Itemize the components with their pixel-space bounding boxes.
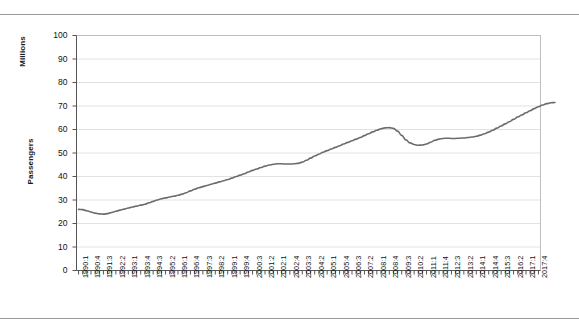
x-axis-tick-label: 2015:3 (504, 255, 511, 277)
x-axis-tick-label: 2011:1 (430, 256, 437, 278)
x-axis-tick-label: 1998:2 (218, 255, 225, 277)
x-axis-tick-label: 2008:1 (380, 255, 387, 277)
x-axis-tick-label: 1990:4 (94, 255, 101, 277)
x-axis-tick-label: 2007:2 (367, 255, 374, 277)
x-axis-tick-label: 2005:1 (330, 255, 337, 277)
x-axis-tick-label: 1993:1 (131, 255, 138, 277)
x-axis-tick-label: 1991:3 (106, 255, 113, 277)
x-axis-tick-label: 2001:2 (268, 255, 275, 277)
x-axis-tick-label: 2014:4 (492, 255, 499, 277)
x-axis-tick-label: 2017:1 (529, 255, 536, 277)
x-axis-tick-label: 2006:3 (355, 255, 362, 277)
x-axis-tick-label: 1993:4 (144, 255, 151, 277)
x-axis-tick-label: 2017:4 (541, 255, 548, 277)
x-axis-tick-label: 2014:1 (479, 255, 486, 277)
x-axis-tick-label: 2008:4 (392, 255, 399, 277)
x-axis-tick-label: 2004:2 (318, 255, 325, 277)
x-axis-tick-label: 1990:1 (82, 255, 89, 277)
x-axis-tick-label: 1996:1 (181, 255, 188, 277)
x-axis-tick-label: 2010:2 (417, 255, 424, 277)
x-axis-tick-label: 1992:2 (119, 255, 126, 277)
chart-figure: Millions Passengers 10090807060504030201… (0, 0, 579, 332)
x-axis-tick-label: 2002:4 (293, 255, 300, 277)
x-axis-tick-label: 2000:3 (256, 255, 263, 277)
x-axis-tick-label: 2012:3 (454, 255, 461, 277)
x-axis-tick-label: 2002:1 (280, 255, 287, 277)
x-axis-tick-label: 1995:2 (169, 255, 176, 277)
x-axis-tick-label: 1999:1 (231, 255, 238, 277)
x-axis-tick-label: 1994:3 (156, 255, 163, 277)
x-axis-tick-label: 2013:2 (467, 255, 474, 277)
x-axis-tick-label: 1997:3 (206, 255, 213, 277)
x-axis-tick-label: 2003:3 (305, 255, 312, 277)
x-axis-tick-label: 1996:4 (193, 255, 200, 277)
plot-area (0, 0, 579, 332)
x-axis-tick-label: 1999:4 (243, 255, 250, 277)
x-axis-tick-label: 2011:4 (442, 256, 449, 278)
data-series-line (79, 102, 555, 214)
x-axis-tick-label: 2016:2 (517, 255, 524, 277)
x-axis-tick-label: 2005:4 (343, 255, 350, 277)
x-axis-tick-label: 2009:3 (405, 255, 412, 277)
